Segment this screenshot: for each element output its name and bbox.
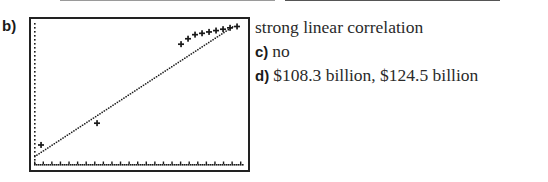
part-c-answer-text: no — [272, 41, 290, 61]
plot-frame — [30, 18, 249, 171]
part-d-answer: d)$108.3 billion, $124.5 billion — [255, 65, 478, 86]
part-c-answer: c)no — [255, 41, 290, 62]
top-rule-right — [285, 0, 500, 1]
part-d-label: d) — [255, 67, 269, 84]
part-c-label: c) — [255, 43, 268, 60]
calculator-scatter-plot — [29, 17, 250, 172]
part-b-answer: strong linear correlation — [255, 17, 423, 37]
top-rule-left — [60, 0, 275, 1]
part-d-answer-text: $108.3 billion, $124.5 billion — [273, 65, 478, 85]
part-b-label: b) — [2, 17, 16, 34]
part-b-answer-text: strong linear correlation — [255, 17, 423, 37]
scatter-plot-svg — [29, 17, 250, 172]
